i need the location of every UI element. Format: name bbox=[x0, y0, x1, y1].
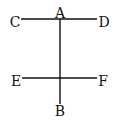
label-c: C bbox=[10, 14, 21, 30]
label-b: B bbox=[55, 103, 65, 119]
label-f: F bbox=[98, 73, 108, 89]
label-a: A bbox=[54, 5, 66, 21]
geometry-diagram: A C D E F B bbox=[0, 0, 121, 123]
label-e: E bbox=[11, 73, 21, 89]
label-d: D bbox=[98, 14, 109, 30]
